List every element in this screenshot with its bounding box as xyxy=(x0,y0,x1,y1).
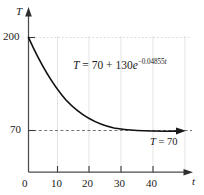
thermal-decay-chart: T t 200 70 0 10 20 30 40 T = 70 + 130e−0… xyxy=(0,0,204,195)
equation-exponent-var: t xyxy=(164,58,166,66)
equation-constant: 70 xyxy=(92,59,104,71)
y-axis xyxy=(25,7,32,172)
decay-curve xyxy=(29,38,187,135)
y-tick-label-70: 70 xyxy=(10,124,21,135)
x-axis xyxy=(29,169,194,176)
x-tick-label-30: 30 xyxy=(114,178,125,189)
x-tick-label-0: 0 xyxy=(22,178,28,189)
asymptote-value: 70 xyxy=(167,136,178,147)
asymptote-annotation: T = 70 xyxy=(150,137,178,148)
y-tick-label-200: 200 xyxy=(3,31,20,42)
x-axis-ticks xyxy=(58,166,154,172)
curve-arrowhead xyxy=(176,127,186,134)
x-tick-label-10: 10 xyxy=(51,178,62,189)
x-axis-label: t xyxy=(192,176,195,187)
chart-canvas xyxy=(0,0,204,195)
equation-coefficient: 130 xyxy=(115,59,132,71)
y-axis-label: T xyxy=(16,6,22,17)
x-tick-label-20: 20 xyxy=(82,178,93,189)
x-tick-label-40: 40 xyxy=(146,178,157,189)
y-axis-ticks xyxy=(29,38,36,131)
equation-annotation: T = 70 + 130e−0.04855t xyxy=(73,59,166,71)
equation-exponent-rate: 0.04855 xyxy=(142,58,165,66)
equation-exponent: −0.04855t xyxy=(138,58,167,66)
vertical-gridlines xyxy=(58,36,186,172)
